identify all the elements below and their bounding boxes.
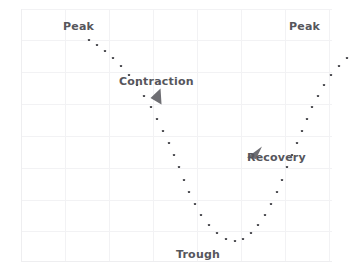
scatter-point [311,106,313,108]
arrow-down-left-icon [148,87,164,107]
scatter-point [323,84,325,86]
scatter-point [188,191,190,193]
scatter-point [296,142,298,144]
label-contraction: Contraction [119,76,194,87]
scatter-point [112,57,114,59]
scatter-point [286,166,288,168]
scatter-point [173,154,175,156]
scatter-point [183,179,185,181]
scatter-point [216,232,218,234]
scatter-point [96,44,98,46]
scatter-point [242,238,244,240]
label-trough: Trough [176,249,220,260]
scatter-point [257,224,259,226]
scatter-point [143,95,145,97]
scatter-point [281,179,283,181]
scatter-point [88,39,90,41]
scatter-point [338,65,340,67]
plot-area: Peak Contraction Trough Recovery Peak [21,9,332,262]
chart-canvas: Peak Contraction Trough Recovery Peak [0,0,352,277]
scatter-point [346,57,348,59]
scatter-point [250,232,252,234]
scatter-point [200,214,202,216]
scatter-point [120,65,122,67]
scatter-point [168,142,170,144]
scatter-point [276,191,278,193]
scatter-point [178,166,180,168]
scatter-point [225,238,227,240]
label-peak-right: Peak [289,21,320,32]
scatter-point [270,203,272,205]
label-peak-left: Peak [63,21,94,32]
scatter-point [104,50,106,52]
label-recovery: Recovery [247,152,306,163]
scatter-point [156,118,158,120]
scatter-series-business-cycle [21,9,332,262]
scatter-point [306,118,308,120]
scatter-point [317,95,319,97]
scatter-point [162,130,164,132]
scatter-point [234,240,236,242]
scatter-point [208,224,210,226]
scatter-point [330,74,332,76]
scatter-point [301,130,303,132]
scatter-point [194,203,196,205]
scatter-point [264,214,266,216]
